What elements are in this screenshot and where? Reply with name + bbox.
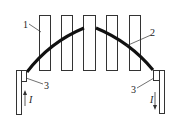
arrow-down-icon: [153, 105, 157, 110]
right-contact: [154, 71, 160, 81]
label-3-right: 3: [131, 84, 136, 95]
label-1: 1: [23, 19, 28, 30]
right-support: [160, 71, 165, 114]
label-3-left: 3: [44, 80, 49, 91]
left-contact: [22, 71, 27, 82]
label-current-right: I: [149, 94, 154, 105]
plate-5: [130, 16, 141, 71]
arrow-up-icon: [23, 90, 27, 95]
diagram-canvas: 1 2 3 3 I I: [0, 0, 175, 123]
label-current-left: I: [28, 94, 33, 105]
leader-3-right: [137, 78, 154, 88]
leader-3-left: [26, 78, 43, 84]
plate-3: [84, 16, 96, 71]
curved-strip: [27, 28, 84, 72]
label-2: 2: [150, 27, 155, 38]
plate-4: [107, 16, 118, 71]
plate-2: [62, 16, 73, 71]
curved-strip-right: [96, 28, 153, 70]
plate-1: [40, 16, 51, 71]
left-support: [17, 71, 22, 115]
